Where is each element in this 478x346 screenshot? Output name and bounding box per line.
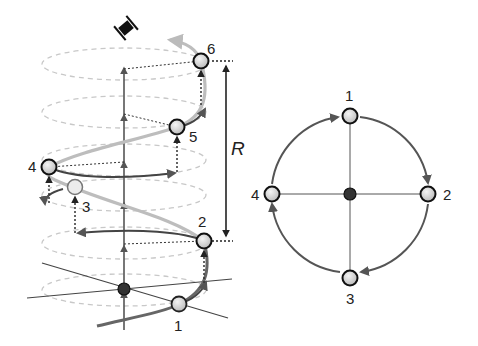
helix-diagram: R 1 2 3 4 5 6 [27,16,245,334]
circle-label-4: 4 [251,186,259,203]
helix-label-3: 3 [82,198,90,215]
circle-label-3: 3 [346,290,354,307]
circle-node-1 [343,109,358,124]
helix-node-1 [172,297,187,312]
helix-nodes [42,54,212,312]
helix-label-1: 1 [174,317,182,334]
helix-dark-bottom [97,241,207,326]
helix-label-2: 2 [198,213,206,230]
circle-label-2: 2 [443,186,451,203]
helix-center-node [118,283,130,295]
helix-label-5: 5 [189,128,197,145]
circle-node-4 [265,187,280,202]
helix-node-3 [68,180,83,195]
circle-node-3 [343,271,358,286]
r-dimension: R [212,61,245,241]
circle-label-1: 1 [345,87,353,104]
helix-node-4 [42,160,57,175]
helix-label-6: 6 [207,40,215,57]
screw-icon [114,16,138,40]
helix-label-4: 4 [28,158,36,175]
helix-node-2 [197,234,212,249]
radial-dotted-lines [49,61,204,244]
r-label: R [231,138,245,159]
diagram-canvas: R 1 2 3 4 5 6 [0,0,478,346]
circle-center-node [344,188,356,200]
circle-diagram: 1 2 3 4 [251,87,451,307]
helix-node-5 [170,120,185,135]
circle-node-2 [421,187,436,202]
